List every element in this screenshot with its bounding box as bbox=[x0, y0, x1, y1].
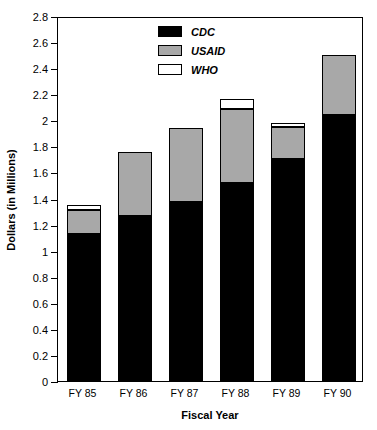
bar-segment-cdc[interactable] bbox=[169, 202, 203, 381]
bar-segment-usaid[interactable] bbox=[271, 127, 305, 159]
stacked-bar-chart: Dollars (in Millions) 00.20.40.60.811.21… bbox=[0, 0, 377, 430]
y-axis-tick-label-text: 2.8 bbox=[2, 11, 48, 23]
x-axis-category-label: FY 86 bbox=[108, 387, 159, 399]
bar-segment-cdc[interactable] bbox=[220, 183, 254, 381]
legend-swatch-cdc bbox=[158, 26, 182, 37]
y-axis-tick-label-text: 1.4 bbox=[2, 194, 48, 206]
bar-segment-cdc[interactable] bbox=[322, 115, 356, 381]
bar-segment-usaid[interactable] bbox=[220, 109, 254, 183]
legend-swatch-who bbox=[158, 64, 182, 75]
y-axis-tick-label: 0.4 bbox=[0, 324, 48, 336]
y-axis-tick-label-text: 0.8 bbox=[2, 272, 48, 284]
y-axis-tick-label: 2.4 bbox=[0, 63, 48, 75]
x-axis-category-label: FY 88 bbox=[210, 387, 261, 399]
y-axis-tick-label-text: 2.4 bbox=[2, 63, 48, 75]
bar-segment-usaid[interactable] bbox=[322, 55, 356, 115]
y-axis-tick-label: 2.6 bbox=[0, 37, 48, 49]
legend-swatch-usaid bbox=[158, 45, 182, 56]
legend-label: CDC bbox=[191, 26, 215, 38]
y-axis-tick-label-text: 0 bbox=[2, 376, 48, 388]
legend-item[interactable]: CDC bbox=[158, 22, 278, 41]
y-axis-tick-label-text: 1.2 bbox=[2, 220, 48, 232]
y-axis-tick-label-text: 1 bbox=[2, 246, 48, 258]
legend-label: USAID bbox=[191, 45, 225, 57]
y-axis-tick-label: 0 bbox=[0, 376, 48, 388]
legend-label: WHO bbox=[191, 64, 218, 76]
bar-segment-cdc[interactable] bbox=[118, 216, 152, 381]
y-axis-tick-label-text: 0.6 bbox=[2, 298, 48, 310]
bar-segment-usaid[interactable] bbox=[169, 128, 203, 202]
legend-item[interactable]: USAID bbox=[158, 41, 278, 60]
bar-segment-cdc[interactable] bbox=[271, 159, 305, 381]
bar-group[interactable] bbox=[118, 16, 152, 381]
y-axis-tick-label: 0.8 bbox=[0, 272, 48, 284]
y-axis-tick-label-text: 0.2 bbox=[2, 350, 48, 362]
x-axis-category-label: FY 90 bbox=[312, 387, 363, 399]
y-axis-tick-label-text: 2.2 bbox=[2, 89, 48, 101]
y-axis-tick-label: 1 bbox=[0, 246, 48, 258]
bar-segment-cdc[interactable] bbox=[67, 234, 101, 381]
y-axis-tick-label: 1.6 bbox=[0, 167, 48, 179]
y-axis-tick-label: 0.2 bbox=[0, 350, 48, 362]
y-axis-tick bbox=[51, 382, 58, 383]
y-axis-tick-label-text: 2 bbox=[2, 115, 48, 127]
bar-segment-who[interactable] bbox=[67, 205, 101, 210]
bar-group[interactable] bbox=[322, 16, 356, 381]
bar-segment-who[interactable] bbox=[220, 99, 254, 108]
y-axis-tick-label: 0.6 bbox=[0, 298, 48, 310]
legend-item[interactable]: WHO bbox=[158, 60, 278, 79]
y-axis-tick-label-text: 0.4 bbox=[2, 324, 48, 336]
y-axis-tick-label-text: 2.6 bbox=[2, 37, 48, 49]
bar-segment-usaid[interactable] bbox=[118, 152, 152, 217]
y-axis-tick-label: 1.2 bbox=[0, 220, 48, 232]
y-axis-tick-label: 2 bbox=[0, 115, 48, 127]
bar-segment-who[interactable] bbox=[271, 123, 305, 128]
x-axis-category-label: FY 87 bbox=[159, 387, 210, 399]
y-axis-tick-label: 1.8 bbox=[0, 141, 48, 153]
x-axis-title: Fiscal Year bbox=[57, 409, 363, 421]
y-axis-tick-label: 1.4 bbox=[0, 194, 48, 206]
bar-segment-usaid[interactable] bbox=[67, 210, 101, 233]
y-axis-tick-label: 2.2 bbox=[0, 89, 48, 101]
x-axis-category-label: FY 85 bbox=[57, 387, 108, 399]
x-axis-category-label: FY 89 bbox=[261, 387, 312, 399]
y-axis-tick-label-text: 1.6 bbox=[2, 167, 48, 179]
chart-legend: CDCUSAIDWHO bbox=[158, 22, 278, 79]
bar-group[interactable] bbox=[67, 16, 101, 381]
y-axis-tick-label-text: 1.8 bbox=[2, 141, 48, 153]
y-axis-tick-label: 2.8 bbox=[0, 11, 48, 23]
